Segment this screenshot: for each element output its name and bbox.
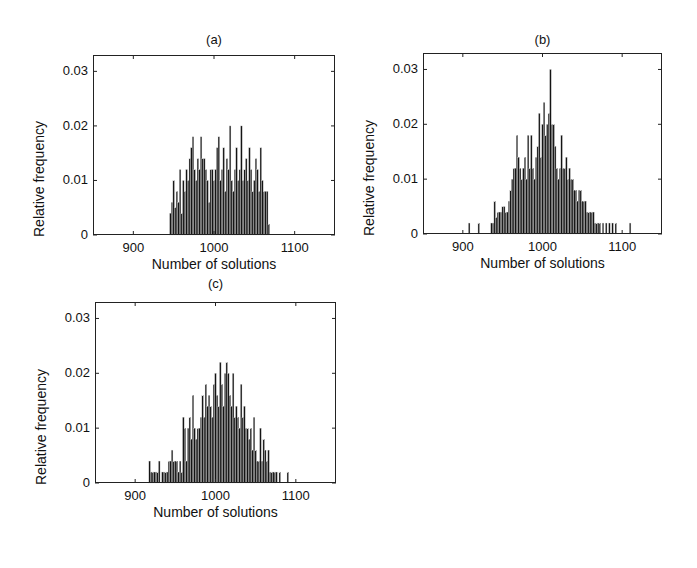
x-tick-label: 900 — [110, 488, 160, 503]
y-tick-label: 0.01 — [50, 420, 90, 435]
y-tick-label: 0.02 — [50, 365, 90, 380]
y-tick-label: 0 — [50, 475, 90, 490]
plot-area-frame — [95, 302, 336, 483]
x-tick-label: 1100 — [271, 488, 321, 503]
y-axis-label: Relative frequency — [33, 369, 49, 485]
x-tick-label: 1000 — [191, 488, 241, 503]
x-axis-label: Number of solutions — [95, 504, 336, 520]
y-tick-label: 0.03 — [50, 310, 90, 325]
